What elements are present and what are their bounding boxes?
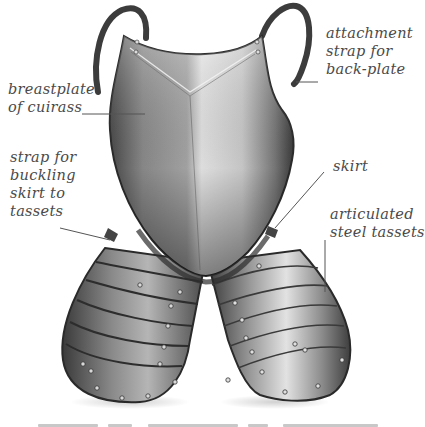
buckle-left [104,228,118,242]
label-attachment-strap: attachment strap for back-plate [326,24,413,78]
left-tasset [62,248,205,402]
label-line: buckling [10,166,76,184]
label-line: strap for [326,42,413,60]
label-line: attachment [326,24,413,42]
label-line: tassets [10,202,76,220]
cut-off-caption [38,420,378,427]
leader-buckling-strap [60,228,110,240]
label-skirt: skirt [333,157,368,175]
label-line: skirt to [10,184,76,202]
label-line: strap for [10,148,76,166]
label-line: skirt [333,157,368,175]
label-line: breastplate [8,80,95,98]
label-line: of cuirass [8,98,95,116]
right-shoulder-strap [262,6,309,84]
label-breastplate: breastplate of cuirass [8,80,95,116]
label-buckling-strap: strap for buckling skirt to tassets [10,148,76,220]
label-line: back-plate [326,60,413,78]
label-tassets: articulated steel tassets [330,205,425,241]
label-line: steel tassets [330,223,425,241]
label-line: articulated [330,205,425,223]
